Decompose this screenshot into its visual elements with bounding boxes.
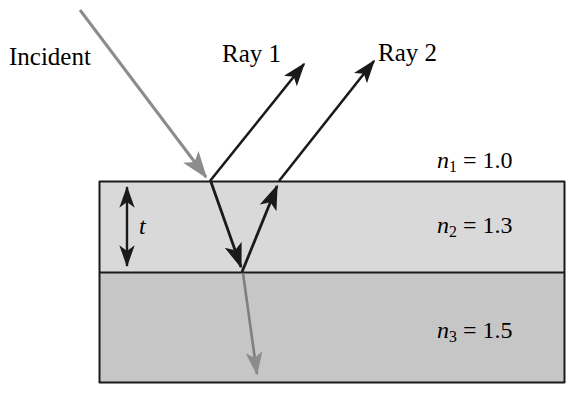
reflected-ray-1 <box>210 64 304 181</box>
n2-subscript: 2 <box>449 223 457 240</box>
refractive-index-n1-label: n1 = 1.0 <box>437 148 512 175</box>
n2-symbol: n <box>437 212 449 238</box>
thin-film-interference-figure: Incident Ray 1 Ray 2 t n1 = 1.0 n2 = 1.3… <box>0 0 585 399</box>
n1-value: = 1.0 <box>463 147 513 173</box>
n3-subscript: 3 <box>449 328 457 345</box>
incident-ray <box>80 10 206 177</box>
refractive-index-n2-label: n2 = 1.3 <box>437 213 512 240</box>
ray-2-label: Ray 2 <box>378 40 437 65</box>
incident-ray-label: Incident <box>9 44 91 69</box>
ray-1-label: Ray 1 <box>222 41 281 66</box>
refractive-index-n3-label: n3 = 1.5 <box>437 318 512 345</box>
n2-value: = 1.3 <box>463 212 513 238</box>
n3-symbol: n <box>437 317 449 343</box>
n1-subscript: 1 <box>449 158 457 175</box>
n1-symbol: n <box>437 147 449 173</box>
film-thickness-label: t <box>139 214 146 238</box>
n3-value: = 1.5 <box>463 317 513 343</box>
